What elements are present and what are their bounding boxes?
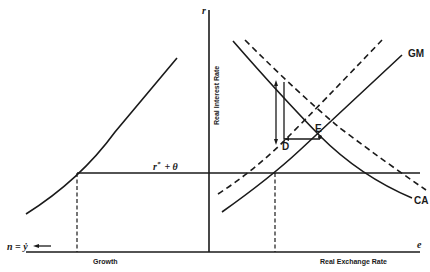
ca-curve-shifted — [245, 40, 426, 190]
point-e — [318, 135, 322, 139]
economic-diagram: r Real Interest Rate GM CA E D r*+ θ e R… — [0, 0, 430, 272]
label-e: E — [315, 123, 322, 134]
label-gm: GM — [408, 48, 424, 59]
origin-arrow-head — [33, 244, 39, 248]
arrow-down-head — [274, 139, 278, 145]
arrow-up-head — [274, 80, 278, 86]
label-origin-growth: n = ẏ — [7, 241, 28, 252]
gm-curve — [222, 55, 402, 212]
y-axis-symbol: r — [202, 5, 206, 16]
x-axis-title-left: Growth — [93, 258, 118, 265]
x-axis-symbol: e — [417, 239, 422, 250]
x-axis-title-right: Real Exchange Rate — [320, 258, 387, 266]
label-d: D — [282, 141, 289, 152]
label-world-rate: r*+ θ — [153, 160, 179, 172]
y-axis-title: Real Interest Rate — [213, 66, 220, 125]
label-ca: CA — [414, 195, 428, 206]
growth-curve — [26, 58, 177, 214]
ca-curve — [233, 41, 412, 198]
gm-curve-shifted — [218, 40, 382, 194]
